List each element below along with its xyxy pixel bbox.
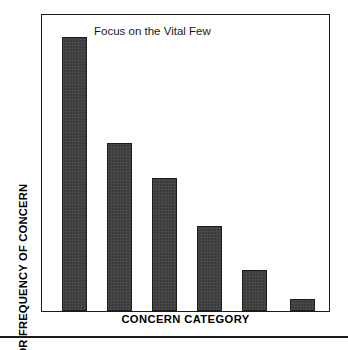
plot-area: Focus on the Vital Few <box>41 14 330 312</box>
bar-5 <box>242 270 267 311</box>
x-axis-label: CONCERN CATEGORY <box>41 314 330 325</box>
y-axis-label: MAGNITUDE OR FREQUENCY OF CONCERN <box>13 14 35 312</box>
y-axis-label-text: MAGNITUDE OR FREQUENCY OF CONCERN <box>18 184 29 350</box>
bar-series <box>42 15 329 311</box>
bar-3 <box>152 178 177 311</box>
bar-4 <box>197 226 222 311</box>
pareto-chart-figure: MAGNITUDE OR FREQUENCY OF CONCERN Focus … <box>0 0 348 350</box>
bar-2 <box>107 143 132 311</box>
bar-1 <box>62 37 87 311</box>
bar-6 <box>290 299 315 311</box>
footer-divider <box>0 336 348 338</box>
